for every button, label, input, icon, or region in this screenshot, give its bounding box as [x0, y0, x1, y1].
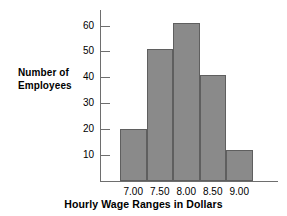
y-axis-tick-mark: [101, 129, 110, 130]
x-axis-line: [100, 181, 278, 182]
plot-area: 102030405060 7.007.508.008.509.00: [100, 10, 278, 181]
histogram-figure: Number of Employees 102030405060 7.007.5…: [0, 0, 287, 216]
x-axis-title: Hourly Wage Ranges in Dollars: [0, 198, 287, 210]
y-axis-tick-label: 60: [70, 21, 94, 31]
x-axis-tick-label: 9.00: [219, 186, 259, 197]
bar: [200, 75, 227, 181]
bar: [226, 150, 253, 181]
y-axis-tick-label: 20: [70, 124, 94, 134]
y-axis-tick-label: 50: [70, 46, 94, 56]
y-axis-tick-mark: [101, 155, 110, 156]
y-axis-tick-mark: [101, 51, 110, 52]
bar: [147, 49, 174, 181]
y-axis-tick-mark: [101, 26, 110, 27]
y-axis-tick-mark: [101, 103, 110, 104]
y-axis-tick-label: 40: [70, 72, 94, 82]
y-axis-tick-label: 10: [70, 150, 94, 160]
y-axis-tick-mark: [101, 77, 110, 78]
bar: [120, 129, 147, 181]
y-axis-tick-label: 30: [70, 98, 94, 108]
bar-series: [120, 10, 253, 181]
bar: [173, 23, 200, 181]
